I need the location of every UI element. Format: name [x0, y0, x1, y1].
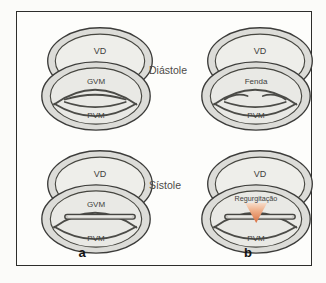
vd-label: VD — [254, 46, 267, 56]
mitral-valve-ellipse: Fenda PVM — [202, 62, 310, 130]
regurgitation-label: Regurgitação — [235, 194, 278, 203]
lower-leaflet-label: PVM — [87, 234, 105, 243]
panel-b-diastole-cleft-valve-diagram: VD Fenda PVM — [201, 27, 319, 131]
panel-a-systole-valve-diagram: VD GVM PVM — [41, 150, 159, 254]
lower-leaflet-label: PVM — [247, 111, 265, 120]
figure-frame: VD GVM PVM VD — [16, 11, 312, 266]
panel-a-diastole-valve-diagram: VD GVM PVM — [41, 27, 159, 131]
cleft-label: Fenda — [245, 77, 268, 86]
row-label-diastole: Diástole — [149, 64, 187, 76]
vd-label: VD — [94, 46, 107, 56]
panel-b-systole-regurgitation-valve-diagram: VD Regurgitação PVM — [201, 150, 319, 254]
lower-leaflet-label: PVM — [87, 111, 105, 120]
upper-leaflet-label: GVM — [87, 200, 106, 209]
mitral-valve-ellipse: GVM PVM — [42, 185, 150, 253]
panel-letter-a: a — [78, 245, 85, 260]
vd-label: VD — [94, 169, 107, 179]
lower-leaflet-label: PVM — [247, 234, 265, 243]
panel-letter-b: b — [244, 245, 252, 260]
row-label-sistole: Sístole — [149, 179, 181, 191]
upper-leaflet-label: GVM — [87, 77, 106, 86]
vd-label: VD — [254, 169, 267, 179]
mitral-valve-ellipse: GVM PVM — [42, 62, 150, 130]
mitral-valve-ellipse: Regurgitação PVM — [202, 185, 310, 253]
figure-canvas: VD GVM PVM VD — [0, 0, 326, 283]
